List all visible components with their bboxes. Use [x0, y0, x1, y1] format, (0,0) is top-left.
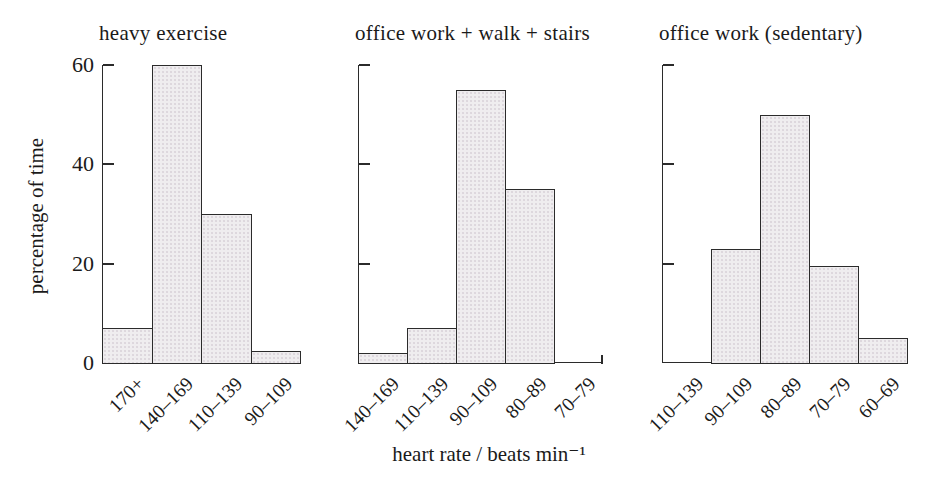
- x-axis-label: heart rate / beats min⁻¹: [392, 442, 585, 467]
- bar: [711, 249, 761, 364]
- x-tick-label: 90–109: [700, 373, 757, 430]
- bar: [809, 266, 859, 364]
- x-tick-label: 80–89: [756, 373, 806, 423]
- figure: heavy exercise0204060170+140–169110–1399…: [0, 0, 941, 490]
- x-tick-label: 60–69: [854, 373, 904, 423]
- bar: [760, 115, 810, 364]
- panel-3: office work (sedentary)110–13990–10980–8…: [0, 0, 941, 490]
- panel-title: office work (sedentary): [659, 21, 863, 46]
- y-tick: [663, 263, 674, 265]
- y-tick: [663, 64, 674, 66]
- x-tick-label: 110–139: [645, 373, 708, 436]
- bar: [858, 338, 908, 364]
- y-axis-label: percentage of time: [24, 138, 49, 294]
- y-tick: [663, 163, 674, 165]
- x-tick-label: 70–79: [805, 373, 855, 423]
